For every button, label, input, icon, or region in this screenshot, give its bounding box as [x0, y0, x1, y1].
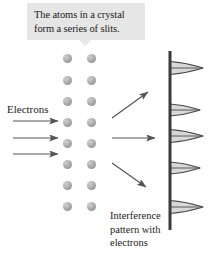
interference-line-3: electrons	[110, 236, 161, 250]
diffracted-arrow-3	[112, 163, 146, 187]
diffracted-electron-arrows	[112, 92, 155, 187]
electron-diffraction-figure: The atoms in a crystal form a series of …	[0, 0, 211, 258]
interference-line-1: Interference	[110, 209, 161, 223]
interference-pattern-label: Interference pattern with electrons	[110, 209, 161, 250]
beam-and-screen-layer	[0, 0, 211, 258]
incident-electron-arrows	[13, 121, 58, 154]
diffracted-arrow-1	[112, 92, 148, 118]
interference-line-2: pattern with	[110, 223, 161, 237]
interference-peaks	[170, 62, 203, 214]
electrons-label: Electrons	[7, 103, 49, 115]
